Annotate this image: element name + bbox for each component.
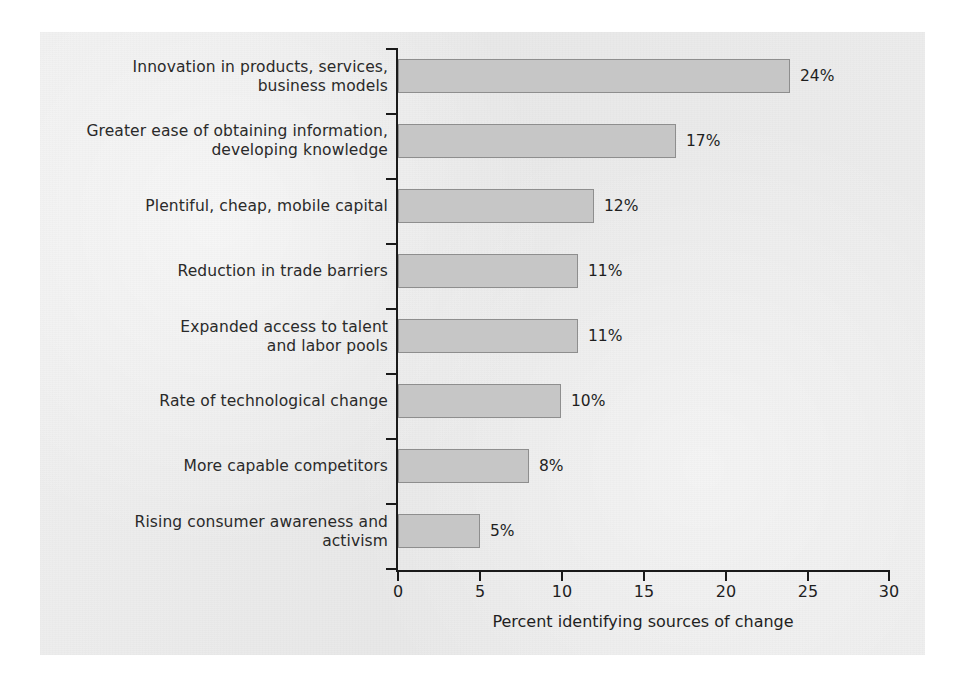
y-axis-tick [386, 308, 397, 310]
bar [398, 514, 480, 548]
bar-value-label: 11% [588, 263, 622, 279]
y-axis-tick [386, 373, 397, 375]
x-axis-tick [643, 570, 645, 581]
category-label: Rising consumer awareness and activism [80, 513, 388, 551]
x-axis-tick [397, 570, 399, 581]
y-axis-tick [386, 503, 397, 505]
y-axis-tick [386, 178, 397, 180]
x-axis-tick [888, 570, 890, 581]
bar-value-label: 12% [604, 198, 638, 214]
category-label: Reduction in trade barriers [120, 262, 388, 281]
x-axis-tick [561, 570, 563, 581]
horizontal-bar-chart: Innovation in products, services, busine… [0, 0, 963, 682]
bar [398, 319, 578, 353]
x-axis-tick [479, 570, 481, 581]
y-axis-tick [386, 243, 397, 245]
bar-value-label: 17% [686, 133, 720, 149]
bar-value-label: 11% [588, 328, 622, 344]
x-axis-tick-label: 10 [542, 583, 582, 600]
bar-value-label: 8% [539, 458, 564, 474]
y-axis-line [396, 48, 398, 572]
bar-value-label: 10% [571, 393, 605, 409]
bar-value-label: 24% [800, 68, 834, 84]
x-axis-tick-label: 20 [706, 583, 746, 600]
y-axis-tick [386, 113, 397, 115]
x-axis-tick-label: 25 [788, 583, 828, 600]
category-label: More capable competitors [130, 457, 388, 476]
bar [398, 449, 529, 483]
category-label: Innovation in products, services, busine… [70, 58, 388, 96]
x-axis-tick-label: 15 [624, 583, 664, 600]
bar [398, 189, 594, 223]
x-axis-tick [807, 570, 809, 581]
x-axis-tick [725, 570, 727, 581]
bar [398, 59, 790, 93]
bar [398, 384, 561, 418]
category-label: Plentiful, cheap, mobile capital [100, 197, 388, 216]
x-axis-tick-label: 5 [460, 583, 500, 600]
category-label: Greater ease of obtaining information, d… [46, 122, 388, 160]
bar-value-label: 5% [490, 523, 515, 539]
bar [398, 124, 676, 158]
y-axis-tick [386, 48, 397, 50]
category-label: Expanded access to talent and labor pool… [120, 318, 388, 356]
bar [398, 254, 578, 288]
x-axis-tick-label: 30 [869, 583, 909, 600]
y-axis-tick [386, 438, 397, 440]
x-axis-tick-label: 0 [378, 583, 418, 600]
x-axis-title: Percent identifying sources of change [443, 612, 843, 631]
category-label: Rate of technological change [110, 392, 388, 411]
